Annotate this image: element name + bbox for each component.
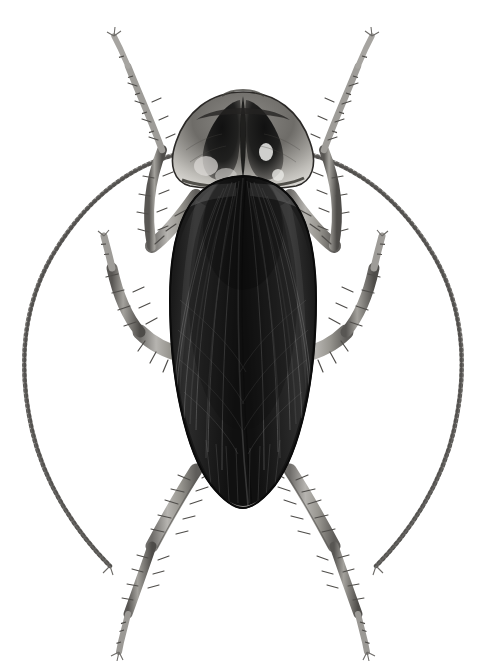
cockroach-illustration: [0, 0, 486, 664]
illustration-canvas: Grayscale naturalist illustration of a c…: [0, 0, 486, 664]
